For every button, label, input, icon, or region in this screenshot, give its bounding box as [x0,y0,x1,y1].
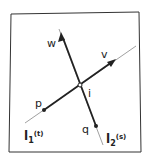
point-q [94,124,98,128]
label-w: w [47,37,56,50]
label-l1: l1(t) [24,129,43,145]
label-l2: l2(s) [106,132,126,148]
diagram-svg: w v i p q l1(t) l2(s) [0,0,159,165]
label-i: i [88,87,91,100]
label-q: q [82,123,89,136]
point-p [42,108,46,112]
diagram-canvas: w v i p q l1(t) l2(s) [0,0,159,165]
arrow-v-icon [107,59,116,67]
line-l2-segment [63,38,96,126]
point-i [78,83,82,87]
label-v: v [101,48,108,61]
paper-border [9,12,141,152]
label-p: p [35,97,42,110]
